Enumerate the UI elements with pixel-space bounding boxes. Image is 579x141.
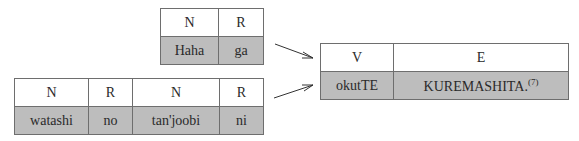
arrows-layer xyxy=(0,0,579,141)
arrow-top-to-result xyxy=(275,44,313,58)
arrow-bottom-to-result xyxy=(274,85,313,98)
